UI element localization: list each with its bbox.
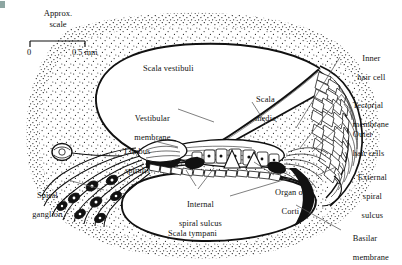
label-external-spiral-sulcus: External spiral sulcus: [338, 163, 398, 230]
label-internal-spiral-sulcus-line1: Internal: [187, 200, 214, 209]
label-scala-vestibuli-line1: Scala vestibuli: [143, 64, 194, 73]
label-basilar-membrane-line1: Basilar: [353, 234, 377, 243]
label-external-spiral-sulcus-line1: External: [358, 173, 387, 182]
scale-tick-left-label: 0: [27, 48, 31, 57]
label-basilar-membrane: Basilar membrane: [344, 224, 402, 265]
label-outer-hair-cells-line2: hair cells: [353, 149, 384, 158]
label-organ-of-corti-line2: Corti: [282, 207, 300, 216]
label-spiral-ganglion: Spiral ganglion: [14, 181, 72, 229]
scale-caption-line1: Approx.: [24, 8, 92, 18]
label-vestibular-membrane-line1: Vestibular: [135, 114, 170, 123]
label-internal-spiral-sulcus-line2: spiral sulcus: [179, 219, 222, 228]
label-organ-of-corti: Organ of Corti: [254, 178, 318, 226]
label-inner-hair-cell-line1: Inner: [362, 54, 380, 63]
label-scala-media-line2: media: [255, 114, 276, 123]
label-scala-media: Scala media: [237, 85, 285, 133]
label-basilar-membrane-line2: membrane: [353, 253, 389, 262]
label-scala-vestibuli: Scala vestibuli: [143, 64, 194, 74]
label-scala-tympani-line1: Scala tympani: [168, 229, 217, 238]
label-outer-hair-cells: Outer hair cells: [344, 120, 402, 168]
cochlea-cross-section-figure: Approx. scale 0 0.5 mm Scala vestibuli S…: [0, 0, 402, 265]
label-spiral-ganglion-line1: Spiral: [37, 191, 58, 200]
label-inner-hair-cell: Inner hair cell: [336, 44, 398, 92]
label-limbus-spiralis-line2: spiralis: [125, 166, 150, 175]
label-spiral-ganglion-line2: ganglion: [32, 210, 62, 219]
label-scala-media-line1: Scala: [256, 95, 275, 104]
label-outer-hair-cells-line1: Outer: [353, 130, 373, 139]
label-tectorial-membrane-line1: Tectorial: [353, 101, 384, 110]
label-scala-tympani: Scala tympani: [168, 229, 217, 239]
label-limbus-spiralis-line1: Limbus: [124, 147, 150, 156]
label-external-spiral-sulcus-line2: spiral: [363, 192, 382, 201]
scale-caption-line2: scale: [24, 19, 92, 29]
label-limbus-spiralis: Limbus spiralis: [104, 137, 162, 185]
scale-tick-right-label: 0.5 mm: [72, 48, 98, 57]
label-external-spiral-sulcus-line3: sulcus: [362, 211, 384, 220]
label-inner-hair-cell-line2: hair cell: [357, 73, 385, 82]
label-organ-of-corti-line1: Organ of: [275, 188, 306, 197]
